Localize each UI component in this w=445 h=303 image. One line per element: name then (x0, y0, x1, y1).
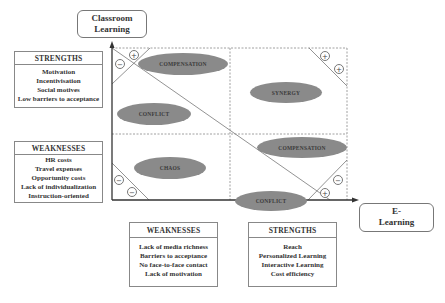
classroom-strength-item: Motivation (17, 68, 100, 77)
sign-bottom-right-plus: + (320, 188, 330, 198)
quadrant-chaos: CHAOS (134, 157, 206, 179)
classroom-weakness-item: Opportunity costs (17, 174, 100, 183)
elearning-weakness-item: Lack of motivation (132, 270, 215, 279)
classroom-weaknesses-box: WEAKNESSES HR costs Travel expenses Oppo… (14, 141, 103, 203)
classroom-strengths-title: STRENGTHS (15, 52, 102, 65)
sign-bottom-left-minus-2: − (127, 187, 137, 197)
classroom-weakness-item: Travel expenses (17, 165, 100, 174)
sign-top-right-plus-1: + (320, 51, 330, 61)
classroom-weakness-item: Instruction-oriented (17, 192, 100, 201)
elearning-strengths-box: STRENGTHS Reach Personalized Learning In… (248, 222, 337, 287)
elearning-weakness-item: Lack of media richness (132, 243, 215, 252)
classroom-weakness-item: Lack of individualization (17, 183, 100, 192)
classroom-weakness-item: HR costs (17, 156, 100, 165)
elearning-weakness-item: Barriers to acceptance (132, 252, 215, 261)
quadrant-conflict-top: CONFLICT (117, 103, 191, 125)
elearning-weaknesses-title: WEAKNESSES (130, 223, 217, 238)
quadrant-conflict-bottom: CONFLICT (235, 191, 307, 211)
elearning-strength-item: Personalized Learning (251, 252, 334, 261)
classroom-strength-item: Low barriers to acceptance (17, 95, 100, 104)
classroom-weaknesses-title: WEAKNESSES (15, 142, 102, 155)
elearning-weaknesses-box: WEAKNESSES Lack of media richness Barrie… (129, 222, 218, 287)
elearning-strengths-title: STRENGTHS (249, 223, 336, 238)
sign-top-left-plus: + (129, 50, 139, 60)
quadrant-synergy: SYNERGY (250, 82, 322, 103)
classroom-strength-item: Social motives (17, 86, 100, 95)
quadrant-compensation-bottom: COMPENSATION (257, 137, 347, 158)
sign-top-left-minus: − (115, 59, 125, 69)
elearning-strength-item: Cost efficiency (251, 270, 334, 279)
quadrant-compensation-top: COMPENSATION (138, 53, 228, 75)
elearning-weakness-item: No face-to-face contact (132, 261, 215, 270)
sign-bottom-left-minus-1: − (114, 175, 124, 185)
elearning-strength-item: Interactive Learning (251, 261, 334, 270)
classroom-strength-item: Incentivisation (17, 77, 100, 86)
elearning-strength-item: Reach (251, 243, 334, 252)
sign-bottom-right-minus: − (333, 175, 343, 185)
sign-top-right-plus-2: + (334, 64, 344, 74)
classroom-strengths-box: STRENGTHS Motivation Incentivisation Soc… (14, 51, 103, 108)
